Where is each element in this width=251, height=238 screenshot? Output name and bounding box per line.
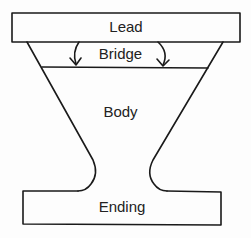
bridge-divider <box>42 67 208 68</box>
story-structure-diagram: Lead Bridge Body Ending <box>0 0 251 238</box>
bridge-label: Bridge <box>80 45 161 62</box>
ending-label: Ending <box>23 198 221 215</box>
lead-label: Lead <box>12 18 240 35</box>
body-label: Body <box>80 103 161 120</box>
